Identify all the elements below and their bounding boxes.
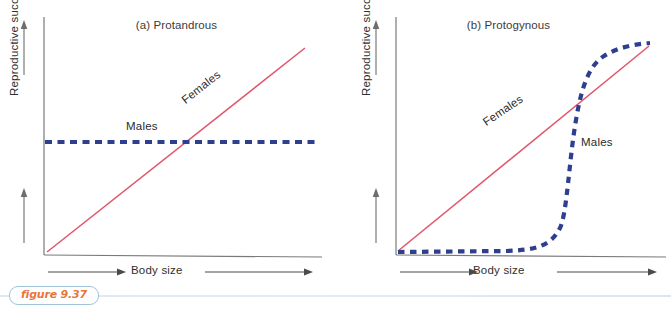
panel-a-x-axis: [44, 255, 322, 257]
chart-panel-b: (b) Protogynous Reproductive success Bod…: [336, 0, 671, 292]
panel-b-y-axis-arrows: [373, 20, 380, 243]
panel-b-plot: [336, 0, 671, 292]
panel-a-y-axis-arrows: [21, 20, 28, 243]
figure-9-37: (a) Protandrous Reproductive success Bod…: [0, 0, 671, 310]
panel-b-x-axis-arrows: [400, 269, 657, 276]
chart-panel-a: (a) Protandrous Reproductive success Bod…: [0, 0, 335, 292]
bottom-divider: [0, 295, 671, 297]
panel-a-x-axis-arrows: [48, 269, 313, 276]
panel-b-males-label: Males: [581, 136, 613, 148]
panel-a-males-label: Males: [126, 120, 158, 132]
panel-a-plot: [0, 0, 335, 292]
panel-a-females-line: [47, 48, 305, 252]
panel-b-females-line: [398, 46, 649, 251]
panel-b-x-axis: [396, 255, 666, 257]
figure-caption-tab: figure 9.37: [9, 286, 99, 305]
